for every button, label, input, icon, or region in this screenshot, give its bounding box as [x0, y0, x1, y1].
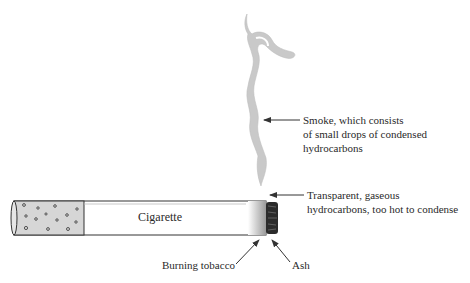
- burning-tobacco-zone: [248, 201, 266, 235]
- smoke-label-line-1: Smoke, which consists: [303, 113, 427, 127]
- smoke-label-line-3: hydrocarbons: [303, 141, 427, 155]
- gaseous-label-line-1: Transparent, gaseous: [307, 188, 458, 202]
- burning-tobacco-arrow: [236, 240, 259, 264]
- cigarette-label: Cigarette: [138, 210, 182, 225]
- gaseous-label-line-2: hydrocarbons, too hot to condense: [307, 202, 458, 216]
- ash-arrow: [272, 240, 290, 262]
- gaseous-label: Transparent, gaseous hydrocarbons, too h…: [307, 188, 458, 216]
- smoke-label-line-2: of small drops of condensed: [303, 127, 427, 141]
- burning-tobacco-label: Burning tobacco: [162, 258, 235, 272]
- ash-label: Ash: [292, 258, 310, 272]
- smoke-plume: [245, 14, 295, 186]
- smoke-label: Smoke, which consists of small drops of …: [303, 113, 427, 155]
